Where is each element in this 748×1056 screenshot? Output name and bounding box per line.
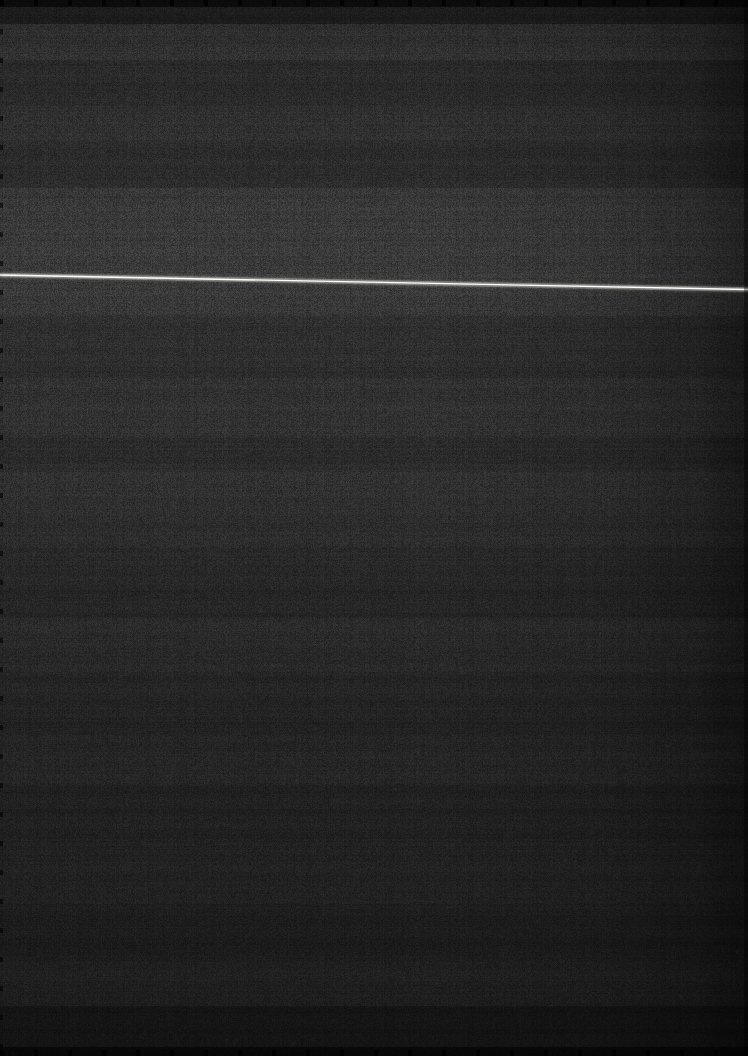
- left-overscan-column: [0, 0, 3, 1056]
- bottom-notch-artifacts: [0, 1050, 748, 1056]
- sensor-noise-highlight-layer: [0, 0, 748, 1056]
- right-overscan-column: [744, 0, 748, 1056]
- top-notch-artifacts: [0, 0, 748, 6]
- sky-frame: Astronomical Sky Frame Dark noisy sky-su…: [0, 0, 748, 1056]
